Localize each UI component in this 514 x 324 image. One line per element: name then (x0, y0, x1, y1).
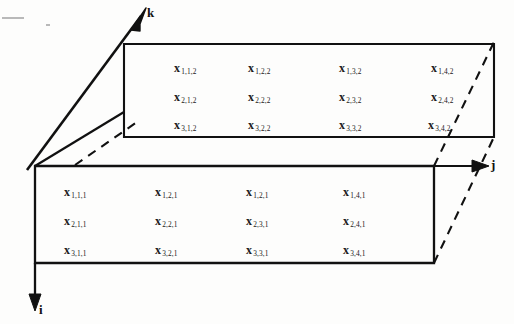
diagram-linework (0, 0, 514, 324)
back-face-cell: x1,4,2 (431, 62, 453, 76)
cell-subscript: 2,3,2 (346, 96, 361, 105)
cell-subscript: 1,2,2 (255, 67, 270, 76)
cell-subscript: 1,3,2 (346, 67, 361, 76)
axis-label-j: j (491, 158, 495, 171)
cell-base: x (155, 243, 161, 257)
cell-subscript: 1,2,1 (253, 191, 268, 200)
cell-base: x (64, 214, 70, 228)
j-axis-arrow (434, 160, 489, 172)
cell-subscript: 1,1,2 (181, 67, 196, 76)
back-face-cell: x1,3,2 (339, 62, 361, 76)
back-face-cell: x3,1,2 (174, 119, 196, 133)
cell-subscript: 1,1,1 (71, 191, 86, 200)
back-face-cell: x1,1,2 (174, 62, 196, 76)
cell-subscript: 2,4,2 (438, 96, 453, 105)
back-face-cell: x3,4,2 (428, 119, 450, 133)
cell-subscript: 2,4,1 (350, 220, 365, 229)
back-face-cell: x2,1,2 (174, 91, 196, 105)
cell-base: x (248, 61, 254, 75)
front-face-cell: x2,1,1 (64, 215, 86, 229)
front-face-cell: x3,1,1 (64, 244, 86, 258)
cell-base: x (155, 185, 161, 199)
cell-base: x (248, 118, 254, 132)
cell-subscript: 2,2,1 (162, 220, 177, 229)
cell-base: x (64, 185, 70, 199)
front-face-cell: x3,4,1 (343, 244, 365, 258)
front-face-cell: x2,2,1 (155, 215, 177, 229)
cell-subscript: 1,4,1 (350, 191, 365, 200)
cell-base: x (248, 90, 254, 104)
axis-label-i: i (39, 303, 43, 316)
cell-subscript: 3,1,2 (181, 124, 196, 133)
back-face-cell: x3,2,2 (248, 119, 270, 133)
front-face-cell: x3,2,1 (155, 244, 177, 258)
cell-subscript: 3,4,1 (350, 249, 365, 258)
cell-subscript: 3,1,1 (71, 249, 86, 258)
front-face-cell: x2,3,1 (246, 215, 268, 229)
dashed-edge-left (75, 122, 137, 165)
cell-subscript: 2,2,2 (255, 96, 270, 105)
front-face-cell: x1,2,1 (246, 186, 268, 200)
axis-label-k: k (147, 6, 154, 19)
cell-subscript: 3,2,1 (162, 249, 177, 258)
back-face-cell: x3,3,2 (339, 119, 361, 133)
cell-base: x (246, 243, 252, 257)
cell-base: x (174, 118, 180, 132)
cell-base: x (174, 61, 180, 75)
cell-base: x (343, 185, 349, 199)
array-diagram-figure: k j i x1,1,2 x1,2,2 x1,3,2 x1,4,2 x2,1,2… (0, 0, 514, 324)
back-face-cell: x2,2,2 (248, 91, 270, 105)
back-face-cell: x1,2,2 (248, 62, 270, 76)
cell-base: x (431, 90, 437, 104)
cell-base: x (343, 243, 349, 257)
front-face-cell: x1,4,1 (343, 186, 365, 200)
front-face-outline (35, 166, 434, 263)
cell-subscript: 3,3,2 (346, 124, 361, 133)
cell-subscript: 3,3,1 (253, 249, 268, 258)
cell-base: x (246, 185, 252, 199)
cell-subscript: 3,4,2 (435, 124, 450, 133)
cell-base: x (246, 214, 252, 228)
cell-subscript: 1,4,2 (438, 67, 453, 76)
back-face-cell: x2,3,2 (339, 91, 361, 105)
cell-base: x (174, 90, 180, 104)
cell-base: x (64, 243, 70, 257)
cell-subscript: 2,1,1 (71, 220, 86, 229)
front-face-cell: x3,3,1 (246, 244, 268, 258)
cell-base: x (339, 118, 345, 132)
cell-base: x (431, 61, 437, 75)
cell-base: x (155, 214, 161, 228)
front-face-cell: x2,4,1 (343, 215, 365, 229)
cell-subscript: 3,2,2 (255, 124, 270, 133)
cell-subscript: 2,3,1 (253, 220, 268, 229)
cell-base: x (339, 90, 345, 104)
cell-base: x (343, 214, 349, 228)
cell-subscript: 1,2,1 (162, 191, 177, 200)
back-face-cell: x2,4,2 (431, 91, 453, 105)
dashed-edge-right-lower (434, 137, 494, 263)
cell-base: x (339, 61, 345, 75)
front-face-cell: x1,2,1 (155, 186, 177, 200)
cell-base: x (428, 118, 434, 132)
k-axis-arrow (27, 8, 146, 170)
front-face-cell: x1,1,1 (64, 186, 86, 200)
cell-subscript: 2,1,2 (181, 96, 196, 105)
